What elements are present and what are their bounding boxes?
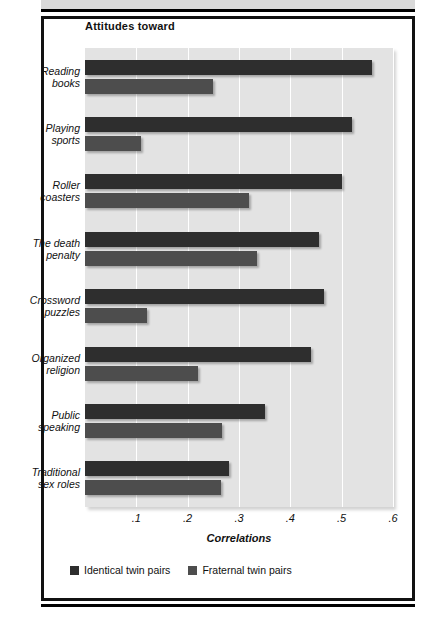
category-label-line: Reading — [2, 65, 80, 77]
category-label: Organizedreligion — [2, 352, 80, 376]
page-bottom-rule — [41, 604, 415, 607]
x-tick-label: .4 — [286, 512, 295, 524]
bar — [85, 289, 324, 304]
chart-legend: Identical twin pairsFraternal twin pairs — [70, 564, 292, 576]
category-label: Crosswordpuzzles — [2, 294, 80, 318]
category-label-line: coasters — [2, 191, 80, 203]
legend-item: Identical twin pairs — [70, 564, 170, 576]
figure: Attitudes toward ReadingbooksPlayingspor… — [0, 0, 430, 617]
x-tick-label: .1 — [132, 512, 141, 524]
bar — [85, 117, 352, 132]
category-label-line: puzzles — [2, 306, 80, 318]
bar — [85, 136, 141, 151]
category-label-line: Crossword — [2, 294, 80, 306]
legend-swatch-icon — [70, 566, 79, 575]
chart-title: Attitudes toward — [85, 20, 175, 32]
category-label-line: Traditional — [2, 466, 80, 478]
bar — [85, 480, 221, 495]
category-label: Rollercoasters — [2, 179, 80, 203]
category-label-line: Roller — [2, 179, 80, 191]
legend-item: Fraternal twin pairs — [188, 564, 291, 576]
bar — [85, 174, 342, 189]
legend-swatch-icon — [188, 566, 197, 575]
x-tick-label: .6 — [388, 512, 397, 524]
bar — [85, 251, 257, 266]
bar — [85, 461, 229, 476]
bar — [85, 79, 213, 94]
category-label: The deathpenalty — [2, 237, 80, 261]
category-label: Traditionalsex roles — [2, 466, 80, 490]
legend-label: Identical twin pairs — [84, 564, 170, 576]
category-label: Readingbooks — [2, 65, 80, 89]
x-axis-title: Correlations — [85, 532, 393, 544]
bar — [85, 404, 265, 419]
bar — [85, 308, 147, 323]
bar — [85, 193, 249, 208]
category-label-line: religion — [2, 364, 80, 376]
category-label: Playingsports — [2, 122, 80, 146]
bar — [85, 423, 222, 438]
bar — [85, 60, 372, 75]
category-label-line: sex roles — [2, 478, 80, 490]
bar — [85, 232, 319, 247]
category-label-line: books — [2, 77, 80, 89]
page-top-strip — [41, 0, 415, 9]
bar — [85, 347, 311, 362]
category-label-line: Playing — [2, 122, 80, 134]
category-label-line: Organized — [2, 352, 80, 364]
x-tick-label: .2 — [183, 512, 192, 524]
gridline — [393, 48, 394, 507]
legend-label: Fraternal twin pairs — [202, 564, 291, 576]
x-tick-label: .5 — [337, 512, 346, 524]
category-label-line: speaking — [2, 421, 80, 433]
page-top-rule — [41, 9, 415, 12]
category-axis-labels: ReadingbooksPlayingsportsRollercoastersT… — [0, 48, 80, 507]
category-label-line: The death — [2, 237, 80, 249]
category-label-line: penalty — [2, 249, 80, 261]
category-label-line: sports — [2, 134, 80, 146]
bar — [85, 366, 198, 381]
x-axis-ticks: .1.2.3.4.5.6 — [85, 512, 393, 530]
category-label: Publicspeaking — [2, 409, 80, 433]
plot-area — [85, 48, 393, 507]
x-tick-label: .3 — [234, 512, 243, 524]
category-label-line: Public — [2, 409, 80, 421]
